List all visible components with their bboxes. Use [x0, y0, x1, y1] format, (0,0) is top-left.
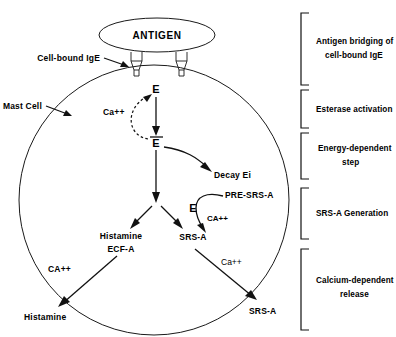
stage-bracket-antigen-bridging: [301, 13, 309, 85]
ige-receptor-right: [176, 52, 187, 76]
srs-a-intracellular-label: SRS-A: [179, 232, 206, 242]
histamine-intracellular-label-line2: ECF-A: [108, 244, 135, 254]
stage-energy-dependent-line2: step: [342, 158, 359, 167]
pre-srs-a-label: PRE-SRS-A: [225, 190, 274, 200]
cell-bound-ige-pointer: [104, 58, 129, 67]
histamine-released-label: Histamine: [24, 312, 66, 322]
decay-label: Decay Ei: [214, 170, 251, 180]
stage-label-energy-dependent-step: Energy-dependent step: [318, 144, 392, 167]
stage-esterase-activation-line1: Esterase activation: [316, 105, 393, 114]
pre-srs-calcium-label: CA++: [207, 214, 228, 223]
ige-receptor-left: [131, 52, 142, 76]
pre-srs-enzyme-label: E: [189, 202, 196, 214]
histamine-intracellular-label-line1: Histamine: [100, 231, 142, 241]
stage-label-esterase-activation: Esterase activation: [316, 105, 393, 114]
cell-bound-ige-label: Cell-bound IgE: [37, 53, 100, 63]
srs-a-released-label: SRS-A: [249, 306, 276, 316]
stage-srs-a-generation-line1: SRS-A Generation: [316, 209, 388, 218]
release-calcium-right-label: Ca++: [221, 257, 242, 267]
enzyme-active-node: E: [150, 137, 163, 149]
stage-label-srs-a-generation: SRS-A Generation: [316, 209, 388, 218]
enzyme-activation-arrow: [152, 97, 160, 136]
mast-cell-diagram: ANTIGEN Cell-bound IgE Mast Cell E E Ca+…: [0, 0, 396, 337]
stage-bracket-calcium-dependent-release: [301, 249, 309, 330]
enzyme-active-label: E: [152, 137, 159, 149]
stage-bracket-esterase-activation: [301, 90, 309, 128]
stage-bracket-srs-a-generation: [301, 188, 309, 239]
srs-a-branch-arrow: [161, 206, 183, 229]
decay-arrow: [164, 147, 212, 172]
antigen-label: ANTIGEN: [132, 30, 181, 41]
calcium-activation-label: Ca++: [103, 107, 125, 117]
stage-calcium-release-line1: Calcium-dependent: [316, 276, 394, 285]
mediator-pathway-arrow: [152, 150, 160, 203]
stage-bracket-energy-dependent-step: [301, 133, 309, 179]
stage-label-antigen-bridging: Antigen bridging of cell-bound IgE: [316, 37, 394, 60]
stage-label-calcium-dependent-release: Calcium-dependent release: [316, 276, 394, 299]
enzyme-inactive-label: E: [152, 83, 159, 95]
release-calcium-left-label: CA++: [48, 264, 71, 274]
stage-calcium-release-line2: release: [340, 290, 369, 299]
stage-energy-dependent-line1: Energy-dependent: [318, 144, 392, 153]
stage-antigen-bridging-line2: cell-bound IgE: [325, 51, 383, 60]
diagram-page: ANTIGEN Cell-bound IgE Mast Cell E E Ca+…: [0, 0, 396, 337]
calcium-activation-curve: [131, 94, 152, 139]
stage-antigen-bridging-line1: Antigen bridging of: [316, 37, 394, 46]
histamine-branch-arrow: [130, 206, 152, 229]
mast-cell-label: Mast Cell: [3, 101, 42, 111]
